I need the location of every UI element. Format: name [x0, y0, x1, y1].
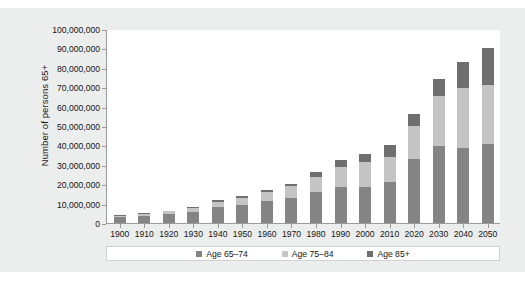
y-tick-label: 90,000,000	[57, 44, 106, 54]
bar-segment	[482, 144, 494, 223]
bar-segment	[433, 96, 445, 145]
bar-column	[181, 30, 206, 223]
bar-column	[475, 30, 500, 223]
bar-segment	[310, 177, 322, 192]
plot-wrapper: 010,000,00020,000,00030,000,00040,000,00…	[106, 30, 500, 224]
bar-column	[328, 30, 353, 223]
y-tick-label: 70,000,000	[57, 83, 106, 93]
bar-column	[426, 30, 451, 223]
x-tick-label: 1910	[132, 224, 157, 239]
x-tick-label: 1980	[304, 224, 329, 239]
bar-segment	[359, 187, 371, 223]
y-tick-label: 60,000,000	[57, 103, 106, 113]
legend-label: Age 65–74	[206, 249, 248, 259]
y-tick-label: 30,000,000	[57, 161, 106, 171]
y-tick-label: 0	[95, 219, 106, 229]
legend-item: Age 75–84	[282, 249, 334, 259]
bar-segment	[457, 62, 469, 87]
bar-segment	[138, 216, 150, 223]
x-tick-label: 2020	[402, 224, 427, 239]
bar-segment	[408, 159, 420, 222]
bar-column	[230, 30, 255, 223]
x-tick-label: 1900	[108, 224, 133, 239]
bar-segment	[236, 198, 248, 205]
bar-segment	[285, 198, 297, 222]
bar-column	[279, 30, 304, 223]
stacked-bar	[236, 196, 248, 222]
stacked-bar	[285, 184, 297, 223]
stacked-bar	[457, 62, 469, 222]
stacked-bar	[408, 114, 420, 223]
x-tick-label: 1990	[328, 224, 353, 239]
y-axis-title: Number of persons 65+	[39, 36, 50, 196]
bar-segment	[335, 160, 347, 167]
x-tick-label: 1930	[181, 224, 206, 239]
bar-column	[157, 30, 182, 223]
y-tick-label: 50,000,000	[57, 122, 106, 132]
bar-column	[402, 30, 427, 223]
x-tick-label: 2000	[353, 224, 378, 239]
bar-column	[206, 30, 231, 223]
x-axis-ticks: 1900191019201930194019501960197019801990…	[108, 224, 501, 239]
stacked-bar	[114, 215, 126, 222]
bar-segment	[335, 187, 347, 223]
chart-legend: Age 65–74Age 75–84Age 85+	[106, 246, 500, 261]
chart-card: Number of persons 65+ 010,000,00020,000,…	[22, 14, 506, 266]
bar-group	[108, 30, 501, 223]
x-tick-label: 1920	[157, 224, 182, 239]
bar-segment	[114, 217, 126, 222]
bar-segment	[384, 145, 396, 157]
stacked-bar	[384, 145, 396, 223]
stacked-bar	[433, 79, 445, 223]
stacked-bar	[187, 207, 199, 222]
bar-segment	[163, 214, 175, 222]
y-tick-label: 100,000,000	[52, 25, 106, 35]
bar-segment	[384, 182, 396, 223]
legend-swatch-icon	[282, 251, 288, 257]
bar-segment	[212, 207, 224, 223]
x-tick-label: 2030	[426, 224, 451, 239]
stacked-bar	[310, 172, 322, 222]
legend-label: Age 75–84	[292, 249, 334, 259]
x-tick-label: 2050	[475, 224, 500, 239]
x-tick-label: 1940	[206, 224, 231, 239]
x-tick-label: 2040	[451, 224, 476, 239]
bar-segment	[187, 212, 199, 222]
y-tick-label: 80,000,000	[57, 64, 106, 74]
legend-swatch-icon	[196, 251, 202, 257]
bar-column	[353, 30, 378, 223]
bar-column	[255, 30, 280, 223]
x-tick-label: 1960	[255, 224, 280, 239]
y-tick-label: 40,000,000	[57, 141, 106, 151]
bar-segment	[261, 201, 273, 222]
bar-segment	[261, 192, 273, 201]
bar-segment	[408, 114, 420, 127]
legend-item: Age 65–74	[196, 249, 248, 259]
stacked-bar	[138, 213, 150, 222]
stacked-bar	[163, 211, 175, 223]
x-tick-label: 1970	[279, 224, 304, 239]
bar-column	[451, 30, 476, 223]
bar-segment	[457, 148, 469, 223]
bar-segment	[335, 167, 347, 186]
bar-segment	[482, 48, 494, 85]
bar-segment	[457, 88, 469, 148]
stacked-bar	[261, 190, 273, 223]
bar-segment	[359, 162, 371, 186]
bar-segment	[359, 154, 371, 163]
bar-segment	[384, 157, 396, 182]
bar-segment	[433, 146, 445, 223]
bar-segment	[433, 79, 445, 96]
bar-column	[132, 30, 157, 223]
bar-column	[304, 30, 329, 223]
figure-caption	[22, 283, 502, 289]
bar-segment	[285, 186, 297, 198]
stacked-bar	[359, 154, 371, 223]
x-tick-label: 2010	[377, 224, 402, 239]
bar-segment	[408, 126, 420, 159]
bar-segment	[482, 85, 494, 144]
legend-item: Age 85+	[367, 249, 409, 259]
bar-column	[108, 30, 133, 223]
legend-label: Age 85+	[377, 249, 409, 259]
figure-container: Number of persons 65+ 010,000,00020,000,…	[0, 0, 525, 289]
